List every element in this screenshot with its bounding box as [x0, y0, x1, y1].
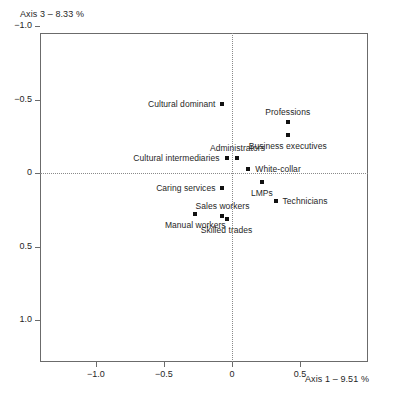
y-axis-tick-label: −1.0: [0, 20, 32, 30]
data-point: [286, 133, 290, 137]
x-axis-tick-label: −1.0: [76, 369, 116, 379]
y-axis-tick: [35, 100, 40, 101]
y-axis-tick: [35, 320, 40, 321]
data-point-label: Cultural intermediaries: [133, 153, 219, 163]
y-axis-tick-label: −0.5: [0, 94, 32, 104]
x-axis-tick-label: −0.5: [144, 369, 184, 379]
x-axis-tick: [232, 362, 233, 367]
data-point: [225, 156, 229, 160]
y-axis-tick-label: 0: [0, 167, 32, 177]
vertical-reference-line: [232, 33, 233, 362]
y-axis-tick: [35, 26, 40, 27]
data-point-label: Administrators: [210, 143, 265, 153]
y-axis-tick: [35, 173, 40, 174]
x-axis-tick: [300, 362, 301, 367]
data-point-label: Caring services: [156, 183, 215, 193]
y-axis-tick-label: 1.0: [0, 314, 32, 324]
scatter-plot: Axis 3 – 8.33 % Axis 1 – 9.51 % Cultural…: [0, 0, 397, 401]
data-point: [246, 167, 250, 171]
y-axis-tick-label: 0.5: [0, 241, 32, 251]
data-point: [286, 120, 290, 124]
data-point-label: LMPs: [251, 188, 273, 198]
x-axis-tick-label: 0.5: [280, 369, 320, 379]
data-point: [193, 212, 197, 216]
data-point: [274, 199, 278, 203]
data-point: [220, 102, 224, 106]
data-point: [220, 186, 224, 190]
data-point-label: Sales workers: [195, 201, 249, 211]
data-point: [260, 180, 264, 184]
y-axis-title: Axis 3 – 8.33 %: [20, 9, 84, 19]
data-point-label: Technicians: [283, 196, 328, 206]
data-point-label: Professions: [265, 107, 310, 117]
data-point-label: Cultural dominant: [148, 99, 215, 109]
horizontal-reference-line: [40, 173, 368, 174]
x-axis-tick-label: 0: [212, 369, 252, 379]
data-point-label: Manual workers: [165, 220, 226, 230]
y-axis-tick: [35, 247, 40, 248]
x-axis-tick: [164, 362, 165, 367]
x-axis-tick: [96, 362, 97, 367]
data-point: [235, 156, 239, 160]
